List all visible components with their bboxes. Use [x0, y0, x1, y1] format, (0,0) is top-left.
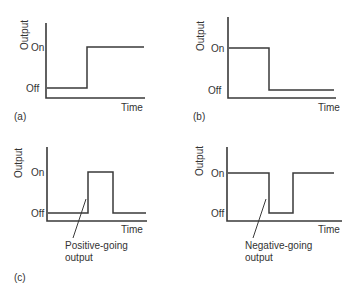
- panel-c-axes: [47, 147, 147, 221]
- panel-a-caption: (a): [14, 111, 26, 122]
- panel-b-step-off: Output On Off Time (b): [193, 17, 340, 122]
- panel-a-signal: [47, 47, 144, 88]
- panel-a-xlabel: Time: [121, 102, 143, 113]
- panel-b-signal: [229, 48, 334, 90]
- panel-b-on-label: On: [211, 43, 224, 54]
- panel-a-axes: [46, 23, 145, 98]
- panel-d-leader-line: [253, 199, 266, 238]
- panel-a-on-label: On: [31, 42, 44, 53]
- panel-c-positive-pulse: Output On Off Time Positive-going output: [13, 147, 147, 263]
- panel-d-axes: [227, 147, 342, 221]
- panel-b-caption: (b): [193, 111, 205, 122]
- panel-d-signal: [228, 173, 334, 213]
- panel-d-annotation-line1: Negative-going: [245, 240, 312, 251]
- panel-d-ylabel: Output: [194, 146, 205, 176]
- panel-c-signal: [48, 172, 146, 213]
- panel-a-off-label: Off: [26, 83, 39, 94]
- output-waveforms-diagram: Output On Off Time (a) Output On Off Tim…: [0, 0, 354, 297]
- panel-b-xlabel: Time: [318, 102, 340, 113]
- panel-d-annotation-line2: output: [245, 252, 273, 263]
- bottom-caption: (c): [14, 272, 26, 283]
- panel-c-ylabel: Output: [13, 148, 24, 178]
- panel-d-on-label: On: [211, 168, 224, 179]
- panel-c-on-label: On: [31, 167, 44, 178]
- panel-d-negative-pulse: Output On Off Time Negative-going output: [194, 146, 342, 263]
- panel-d-xlabel: Time: [318, 224, 340, 235]
- panel-a-ylabel: Output: [19, 20, 30, 50]
- panel-d-off-label: Off: [211, 208, 224, 219]
- panel-c-annotation-line2: output: [65, 252, 93, 263]
- panel-c-off-label: Off: [31, 208, 44, 219]
- panel-c-annotation-line1: Positive-going: [65, 240, 128, 251]
- panel-b-off-label: Off: [208, 85, 221, 96]
- panel-c-leader-line: [73, 199, 86, 238]
- panel-b-ylabel: Output: [195, 21, 206, 51]
- panel-c-xlabel: Time: [121, 224, 143, 235]
- panel-b-axes: [228, 17, 336, 98]
- panel-a-step-on: Output On Off Time (a): [14, 20, 145, 122]
